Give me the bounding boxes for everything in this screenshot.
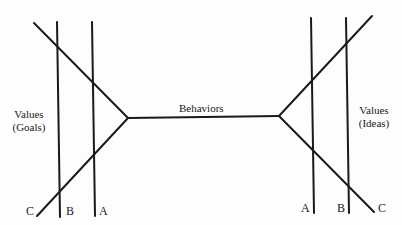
behaviors-label: Behaviors [179,102,224,115]
right-letter-b: B [337,202,345,215]
right-values-label: Values (Ideas) [351,104,397,130]
left-letter-b: B [66,205,74,218]
right-values-line1: Values [351,104,397,117]
left-line-a [92,22,95,216]
right-values-line2: (Ideas) [351,117,397,130]
values-behaviors-diagram: Values (Goals) C B A Behaviors Values (I… [0,0,402,225]
left-values-line1: Values [6,108,52,121]
left-letter-c: C [26,205,34,218]
right-lower-diagonal-c [279,116,374,212]
right-letter-a: A [301,202,310,215]
right-letter-c: C [378,202,386,215]
left-values-line2: (Goals) [6,121,52,134]
left-letter-a: A [99,205,108,218]
right-upper-diagonal [279,16,372,116]
left-upper-diagonal [34,23,128,118]
left-values-label: Values (Goals) [6,108,52,134]
behaviors-line [128,116,279,118]
right-line-a [311,18,314,213]
left-line-b [57,22,60,217]
